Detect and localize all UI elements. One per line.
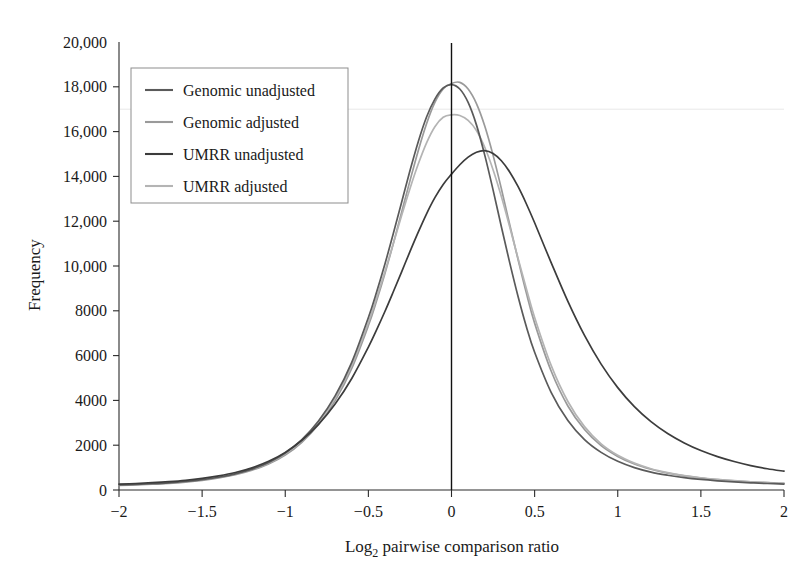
x-tick-label: 1 — [614, 503, 622, 520]
legend-label-umrr-adjusted: UMRR adjusted — [183, 178, 287, 196]
x-tick-label: 1.5 — [691, 503, 711, 520]
x-tick-label: −2 — [110, 503, 127, 520]
y-tick-label: 14,000 — [63, 168, 107, 185]
y-tick-label: 6000 — [75, 347, 107, 364]
legend-label-genomic-adjusted: Genomic adjusted — [183, 114, 299, 132]
x-axis-title-base: Log — [345, 537, 373, 556]
x-tick-label: 0.5 — [525, 503, 545, 520]
y-tick-label: 10,000 — [63, 258, 107, 275]
x-tick-label: −0.5 — [354, 503, 383, 520]
x-axis-title-rest: pairwise comparison ratio — [378, 537, 559, 556]
y-tick-label: 12,000 — [63, 213, 107, 230]
y-tick-label: 8000 — [75, 302, 107, 319]
legend-label-genomic-unadjusted: Genomic unadjusted — [183, 82, 315, 100]
x-tick-label: 0 — [448, 503, 456, 520]
x-tick-label: 2 — [780, 503, 788, 520]
y-tick-label: 18,000 — [63, 78, 107, 95]
x-tick-label: −1 — [277, 503, 294, 520]
y-tick-label: 0 — [99, 482, 107, 499]
x-tick-label: −1.5 — [188, 503, 217, 520]
chart-background — [0, 0, 807, 578]
y-tick-label: 2000 — [75, 437, 107, 454]
y-tick-label: 20,000 — [63, 34, 107, 51]
frequency-distribution-chart: 0200040006000800010,00012,00014,00016,00… — [0, 0, 807, 578]
y-tick-label: 4000 — [75, 392, 107, 409]
legend-label-umrr-unadjusted: UMRR unadjusted — [183, 146, 303, 164]
y-tick-label: 16,000 — [63, 123, 107, 140]
chart-legend: Genomic unadjustedGenomic adjustedUMRR u… — [131, 68, 348, 203]
y-axis-title: Frequency — [25, 239, 44, 311]
